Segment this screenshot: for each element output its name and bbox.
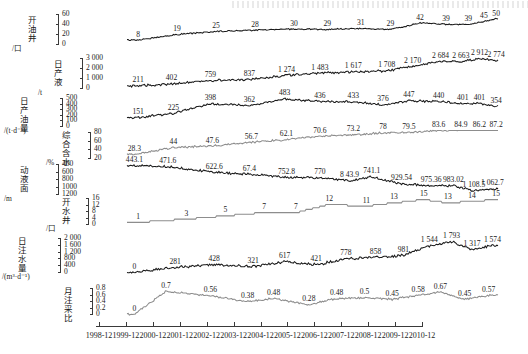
data-label: 15 (420, 191, 428, 199)
data-label: 428 (208, 256, 219, 264)
data-label: 29 (324, 20, 332, 28)
y-tick (90, 314, 94, 315)
series-svg (0, 238, 528, 272)
x-axis: 1998-121999-122000-122001-122002-122003-… (0, 318, 528, 354)
data-label: 67.4 (243, 165, 256, 173)
data-label: 0.7 (161, 282, 171, 290)
data-label: 3 (184, 210, 188, 218)
data-label: 401 (474, 94, 485, 102)
plot-area-daily-oil-production (0, 98, 528, 126)
data-label: 622.6 (206, 163, 223, 171)
data-label: 0.56 (204, 287, 217, 295)
x-tick (153, 322, 154, 327)
data-label: 12 (325, 195, 333, 203)
data-label: 151 (132, 108, 143, 116)
data-label: 0 (133, 305, 137, 313)
data-label: 0.67 (434, 283, 447, 291)
x-tick-label: 2007-12 (328, 331, 355, 340)
x-tick (207, 322, 208, 327)
data-label: 617 (279, 252, 290, 260)
data-label: 47.6 (206, 137, 219, 145)
data-label: 8 (136, 31, 140, 39)
data-label: 398 (205, 95, 216, 103)
data-label: 79.5 (402, 123, 415, 131)
data-label: 28.3 (128, 145, 141, 153)
data-label: 13 (444, 194, 452, 202)
x-tick-label: 2009-12 (382, 331, 409, 340)
data-label: 211 (133, 77, 144, 85)
data-label: 11 (363, 197, 370, 205)
data-label: 759 (205, 71, 216, 79)
data-label: 1 317 (463, 241, 480, 249)
y-tick (60, 126, 64, 127)
data-label: 45 (480, 12, 488, 20)
series-svg (0, 58, 528, 88)
data-label: 8 43.9 (340, 172, 359, 180)
data-label: 433 (348, 93, 359, 101)
data-label: 321 (247, 257, 258, 265)
x-tick-label: 2000-12 (139, 331, 166, 340)
data-label: 73.2 (347, 126, 360, 134)
series-line-open-water-wells (127, 200, 498, 223)
y-axis-unit-daily-liquid-production: /t (38, 89, 42, 97)
data-label: 39 (465, 15, 473, 23)
plot-area-daily-water-injection (0, 238, 528, 272)
data-label: 2 912 (471, 50, 488, 58)
x-tick-label: 2008-12 (355, 331, 382, 340)
data-label: 84.9 (454, 121, 467, 129)
data-label: 0.28 (302, 296, 315, 304)
data-label: 1 (136, 213, 140, 221)
data-label: 752.8 (278, 168, 295, 176)
x-tick (422, 322, 423, 327)
series-svg (0, 288, 528, 314)
data-label: 29 (387, 20, 395, 28)
y-tick (86, 224, 90, 225)
plot-area-daily-liquid-production (0, 58, 528, 88)
x-tick-label: 2001-12 (166, 331, 193, 340)
data-label: 0.57 (482, 286, 495, 294)
x-tick (126, 322, 127, 327)
x-tick (180, 322, 181, 327)
x-tick-label: 2003-12 (220, 331, 247, 340)
data-label: 0.48 (267, 289, 280, 297)
data-label: 83.6 (432, 121, 445, 129)
data-label: 86.2 (473, 121, 486, 129)
data-label: 39 (442, 15, 450, 23)
data-label: 440 (433, 92, 444, 100)
y-axis-unit-daily-water-injection: /(m³·d⁻¹) (2, 273, 30, 281)
data-label: 447 (403, 92, 414, 100)
data-label: 1 708 (378, 62, 395, 70)
x-axis-line (96, 326, 422, 327)
plot-area-monthly-injection-production-ratio (0, 288, 528, 314)
data-label: 401 (457, 94, 468, 102)
data-label: 0.45 (458, 290, 471, 298)
y-tick (56, 194, 60, 195)
data-label: 778 (340, 250, 351, 258)
data-label: 1 793 (443, 232, 460, 240)
series-svg (0, 132, 528, 158)
data-label: 1 544 (421, 237, 438, 245)
scan-artifact-strip (232, 1, 528, 8)
data-label: 7 (294, 204, 298, 212)
data-label: 421 (311, 256, 322, 264)
data-label: 1 274 (278, 66, 295, 74)
data-label: 28 (251, 21, 259, 29)
data-label: 471.6 (159, 158, 176, 166)
data-label: 2 684 (432, 52, 449, 60)
data-label: 1 574 (484, 236, 501, 244)
data-label: 858 (370, 248, 381, 256)
x-tick-label: 2005-12 (274, 331, 301, 340)
series-svg (0, 98, 528, 126)
data-label: 1 483 (311, 64, 328, 72)
data-label: 56.7 (245, 133, 258, 141)
data-label: 402 (166, 75, 177, 83)
data-label: 78 (379, 124, 387, 132)
y-tick (56, 44, 60, 45)
data-label: 376 (377, 96, 388, 104)
x-tick-label: 2002-12 (193, 331, 220, 340)
data-label: 14 (468, 192, 476, 200)
data-label: 42 (416, 14, 424, 22)
data-label: 0.45 (386, 290, 399, 298)
data-label: 50 (492, 10, 500, 18)
y-axis-unit-open-oil-wells: /口 (12, 45, 21, 53)
